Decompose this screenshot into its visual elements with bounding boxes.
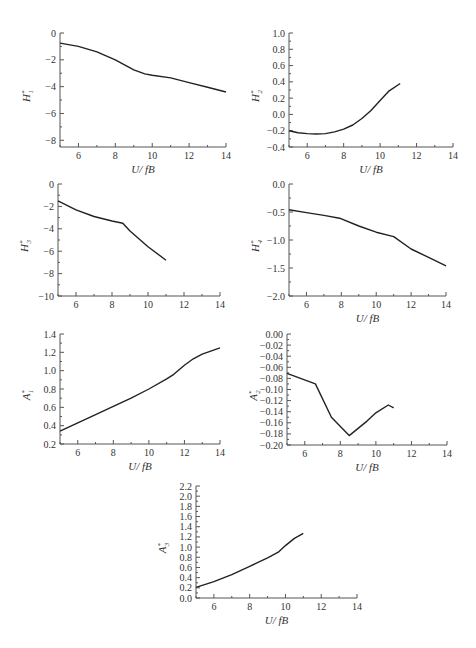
x-tick-label: 6 (74, 299, 79, 310)
y-tick-label: 0.0 (273, 179, 286, 190)
y-axis-title: H*3 (18, 240, 33, 253)
y-tick-label: −1.0 (267, 235, 285, 246)
y-tick-label: −4 (45, 81, 56, 92)
x-axis-title: U/ fB (128, 460, 152, 472)
chart-h3-plot: 681012140−2−4−6−8−10H*3 (18, 179, 225, 311)
data-series-line (287, 373, 394, 435)
x-tick-label: 14 (215, 447, 225, 458)
x-axis-title: U/ fB (265, 614, 289, 626)
chart-a1-plot: 681012141.41.21.00.80.60.40.2A*1U/ fB (20, 329, 225, 473)
y-tick-label: −0.08 (260, 373, 283, 384)
x-tick-label: 8 (113, 150, 118, 161)
y-tick-label: −0.06 (260, 362, 283, 373)
y-tick-label: −6 (43, 246, 54, 257)
y-tick-label: −8 (45, 135, 56, 146)
x-axis-title: U/ fB (356, 312, 380, 324)
y-tick-label: −0.10 (260, 384, 283, 395)
y-tick-label: 0.8 (44, 384, 57, 395)
x-tick-label: 14 (442, 448, 452, 459)
x-tick-label: 10 (375, 150, 385, 161)
x-tick-label: 12 (179, 447, 189, 458)
y-tick-label: −1.5 (267, 263, 285, 274)
y-axis-title: H*4 (249, 240, 264, 253)
y-tick-label: −8 (43, 268, 54, 279)
y-tick-label: −6 (45, 108, 56, 119)
x-tick-label: 12 (412, 150, 422, 161)
y-axis-title: A*1 (20, 390, 35, 402)
y-tick-label: −2.0 (267, 291, 285, 302)
y-tick-label: 1.0 (273, 28, 286, 39)
x-tick-label: 14 (221, 150, 231, 161)
x-tick-label: 10 (280, 601, 290, 612)
x-tick-label: 12 (406, 299, 416, 310)
y-axis-title: A*3 (156, 542, 171, 554)
x-tick-label: 12 (406, 448, 416, 459)
y-tick-label: −4 (43, 223, 54, 234)
x-axis-title: U/ fB (355, 461, 379, 473)
y-axis-title: H*2 (249, 90, 264, 103)
x-tick-label: 6 (305, 150, 310, 161)
data-series-line (60, 43, 226, 92)
y-tick-label: 0.0 (180, 593, 193, 604)
y-tick-label: 0.4 (273, 76, 286, 87)
y-tick-label: 0 (51, 28, 56, 39)
data-series-line (60, 348, 220, 431)
x-tick-label: 10 (144, 447, 154, 458)
y-tick-label: −0.04 (260, 351, 283, 362)
x-tick-label: 8 (247, 601, 252, 612)
x-tick-label: 8 (339, 299, 344, 310)
y-tick-label: 0.2 (44, 439, 57, 450)
y-tick-label: 0.2 (273, 93, 286, 104)
y-tick-label: −2 (43, 201, 54, 212)
y-tick-label: −0.12 (260, 395, 283, 406)
x-tick-label: 6 (304, 299, 309, 310)
x-tick-label: 14 (352, 601, 362, 612)
x-tick-label: 14 (215, 299, 225, 310)
x-tick-label: 10 (371, 299, 381, 310)
y-tick-label: −0.16 (260, 417, 283, 428)
x-tick-label: 10 (143, 299, 153, 310)
y-tick-label: −0.14 (260, 406, 283, 417)
x-axis-title: U/ fB (359, 163, 383, 175)
x-tick-label: 8 (338, 448, 343, 459)
x-tick-label: 6 (75, 447, 80, 458)
data-series-line (58, 201, 166, 260)
x-tick-label: 8 (111, 447, 116, 458)
y-tick-label: −2 (45, 54, 56, 65)
x-tick-label: 12 (316, 601, 326, 612)
y-tick-label: −0.5 (267, 207, 285, 218)
x-tick-label: 12 (184, 150, 194, 161)
data-series-line (196, 533, 303, 587)
data-series-line (289, 84, 400, 135)
y-tick-label: −0.4 (267, 142, 285, 153)
y-tick-label: −0.02 (260, 340, 283, 351)
chart-a2-plot: 681012140.00−0.02−0.04−0.06−0.08−0.10−0.… (247, 329, 452, 474)
chart-h1-plot: 681012140−2−4−6−8H*1U/ fB (20, 28, 231, 176)
x-tick-label: 6 (211, 601, 216, 612)
x-tick-label: 8 (341, 150, 346, 161)
y-tick-label: −0.18 (260, 428, 283, 439)
x-tick-label: 10 (147, 150, 157, 161)
y-tick-label: 0 (49, 179, 54, 190)
data-series-line (289, 210, 446, 266)
x-tick-label: 12 (179, 299, 189, 310)
chart-a3-plot: 681012142.22.01.81.61.41.21.00.80.60.40.… (156, 481, 362, 627)
y-tick-label: 0.6 (273, 60, 286, 71)
y-tick-label: −10 (38, 291, 54, 302)
y-tick-label: −0.20 (260, 440, 283, 451)
chart-h4-plot: 681012140.0−0.5−1.0−1.5−2.0H*4U/ fB (249, 179, 451, 325)
y-tick-label: 0.00 (266, 329, 284, 340)
y-tick-label: 0.6 (44, 402, 57, 413)
y-tick-label: 0.0 (273, 109, 286, 120)
figure-canvas: 681012140−2−4−6−8H*1U/ fB681012141.00.80… (0, 0, 476, 648)
x-tick-label: 8 (110, 299, 115, 310)
x-tick-label: 10 (371, 448, 381, 459)
y-tick-label: 1.4 (44, 329, 57, 340)
y-axis-title: H*1 (20, 90, 35, 103)
y-tick-label: 0.4 (44, 420, 57, 431)
x-tick-label: 6 (76, 150, 81, 161)
y-tick-label: 1.0 (44, 365, 57, 376)
y-tick-label: 0.8 (273, 44, 286, 55)
x-tick-label: 14 (441, 299, 451, 310)
x-axis-title: U/ fB (131, 163, 155, 175)
